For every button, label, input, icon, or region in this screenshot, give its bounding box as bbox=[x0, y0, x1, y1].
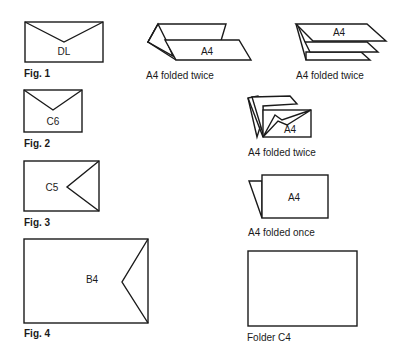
envelope-c6: C6 bbox=[24, 90, 82, 132]
fold-caption: A4 folded twice bbox=[296, 70, 364, 81]
a4-folded-twice-letterfold: A4 bbox=[296, 24, 386, 60]
envelope-c6-label: C6 bbox=[47, 116, 60, 127]
folder-c4-body bbox=[248, 251, 357, 326]
fold-caption: A4 folded twice bbox=[248, 147, 316, 158]
folder-c4 bbox=[248, 251, 357, 326]
fold-layer-bottom bbox=[306, 52, 370, 60]
fold-caption: A4 folded twice bbox=[146, 70, 214, 81]
envelope-dl-label: DL bbox=[58, 46, 71, 57]
fig-2-caption: Fig. 2 bbox=[24, 138, 51, 149]
a4-folded-once: A4 bbox=[249, 175, 328, 218]
envelope-b4: B4 bbox=[24, 239, 148, 323]
envelope-dl: DL bbox=[25, 22, 103, 62]
fold-back-flap bbox=[249, 181, 262, 218]
fold-a4-label: A4 bbox=[288, 192, 301, 203]
fold-layer-middle bbox=[305, 42, 378, 52]
folder-c4-caption: Folder C4 bbox=[247, 332, 291, 343]
fig-4-caption: Fig. 4 bbox=[24, 328, 51, 339]
a4-folded-twice-zfold: A4 bbox=[148, 24, 251, 60]
fold-a4-label: A4 bbox=[201, 46, 214, 57]
fig-3-caption: Fig. 3 bbox=[24, 217, 51, 228]
fig-1-caption: Fig. 1 bbox=[24, 68, 51, 79]
envelope-c5-body bbox=[24, 161, 99, 211]
envelope-b4-label: B4 bbox=[86, 274, 99, 285]
fold-a4-label: A4 bbox=[284, 124, 297, 135]
envelope-c5-label: C5 bbox=[46, 182, 59, 193]
fold-a4-label: A4 bbox=[333, 27, 346, 38]
envelope-c5: C5 bbox=[24, 161, 99, 211]
a4-folded-twice-crossfold: A4 bbox=[248, 96, 311, 137]
fold-caption: A4 folded once bbox=[248, 227, 315, 238]
